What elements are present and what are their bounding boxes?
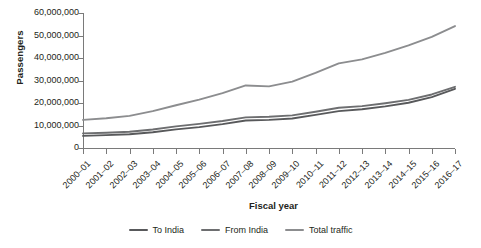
x-tick-mark	[83, 149, 84, 154]
x-tick-mark	[176, 149, 177, 154]
y-tick-label: 50,000,000	[34, 30, 79, 40]
legend-item[interactable]: From India	[201, 225, 268, 235]
series-line	[83, 89, 455, 136]
x-axis-title: Fiscal year	[0, 200, 481, 211]
y-tick-label: 20,000,000	[34, 97, 79, 107]
x-tick-mark	[362, 149, 363, 154]
y-tick-label: 10,000,000	[34, 120, 79, 130]
x-tick-mark	[409, 149, 410, 154]
x-tick-mark	[339, 149, 340, 154]
plot-area	[83, 13, 455, 148]
series-lines	[83, 13, 455, 148]
y-tick-label: 0	[74, 142, 79, 152]
x-tick-mark	[269, 149, 270, 154]
legend-swatch-icon	[201, 229, 220, 232]
x-tick-mark	[199, 149, 200, 154]
legend-swatch-icon	[129, 229, 148, 232]
legend-item[interactable]: Total traffic	[285, 225, 352, 235]
x-tick-mark	[455, 149, 456, 154]
x-tick-mark	[292, 149, 293, 154]
series-line	[83, 26, 455, 120]
x-tick-mark	[223, 149, 224, 154]
x-tick-mark	[106, 149, 107, 154]
legend-item[interactable]: To India	[129, 225, 185, 235]
x-tick-mark	[316, 149, 317, 154]
y-tick-label: 40,000,000	[34, 52, 79, 62]
x-tick-mark	[153, 149, 154, 154]
y-tick-label: 60,000,000	[34, 7, 79, 17]
x-axis-title-text: Fiscal year	[249, 200, 298, 211]
legend-swatch-icon	[285, 229, 304, 232]
x-tick-mark	[432, 149, 433, 154]
legend-label: Total traffic	[309, 225, 352, 235]
x-axis-tick-labels: 2000–012001–022002–032003–042004–052005–…	[0, 155, 481, 200]
x-tick-mark	[246, 149, 247, 154]
y-tick-label: 30,000,000	[34, 75, 79, 85]
y-axis-tick-labels: 010,000,00020,000,00030,000,00040,000,00…	[0, 13, 79, 148]
series-line	[83, 87, 455, 134]
legend-label: From India	[225, 225, 268, 235]
chart-figure: Passengers 010,000,00020,000,00030,000,0…	[0, 0, 481, 248]
x-tick-mark	[130, 149, 131, 154]
chart-legend: To IndiaFrom IndiaTotal traffic	[0, 225, 481, 235]
x-tick-mark	[385, 149, 386, 154]
legend-label: To India	[153, 225, 185, 235]
